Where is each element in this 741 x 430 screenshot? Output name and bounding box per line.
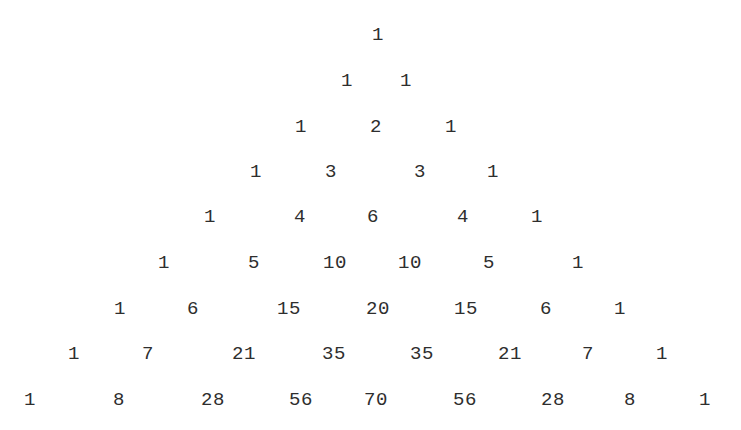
pascal-triangle: 1111211331146411510105116152015611721353… [0, 0, 741, 430]
triangle-cell: 1 [445, 118, 457, 137]
triangle-cell: 1 [372, 26, 384, 45]
triangle-cell: 28 [201, 391, 225, 410]
triangle-cell: 1 [341, 72, 353, 91]
triangle-cell: 1 [158, 254, 170, 273]
triangle-cell: 1 [531, 208, 543, 227]
triangle-cell: 21 [232, 345, 256, 364]
triangle-cell: 1 [68, 345, 80, 364]
triangle-cell: 3 [325, 163, 337, 182]
triangle-cell: 1 [656, 345, 668, 364]
triangle-cell: 1 [699, 391, 711, 410]
triangle-cell: 1 [250, 163, 262, 182]
triangle-cell: 15 [454, 300, 478, 319]
triangle-cell: 10 [323, 254, 347, 273]
triangle-cell: 8 [113, 391, 125, 410]
triangle-cell: 6 [187, 300, 199, 319]
triangle-cell: 5 [483, 254, 495, 273]
triangle-cell: 15 [277, 300, 301, 319]
triangle-cell: 5 [248, 254, 260, 273]
triangle-cell: 7 [142, 345, 154, 364]
triangle-cell: 21 [498, 345, 522, 364]
triangle-cell: 4 [457, 208, 469, 227]
triangle-cell: 1 [400, 72, 412, 91]
triangle-cell: 1 [24, 391, 36, 410]
triangle-cell: 20 [366, 300, 390, 319]
triangle-cell: 1 [487, 163, 499, 182]
triangle-cell: 4 [294, 208, 306, 227]
triangle-cell: 6 [540, 300, 552, 319]
triangle-cell: 28 [541, 391, 565, 410]
triangle-cell: 70 [364, 391, 388, 410]
triangle-cell: 35 [322, 345, 346, 364]
triangle-cell: 3 [414, 163, 426, 182]
triangle-cell: 35 [410, 345, 434, 364]
triangle-cell: 8 [624, 391, 636, 410]
triangle-cell: 1 [572, 254, 584, 273]
triangle-cell: 2 [370, 118, 382, 137]
triangle-cell: 10 [398, 254, 422, 273]
triangle-cell: 1 [295, 118, 307, 137]
triangle-cell: 1 [204, 208, 216, 227]
triangle-cell: 56 [453, 391, 477, 410]
triangle-cell: 56 [289, 391, 313, 410]
triangle-cell: 1 [614, 300, 626, 319]
triangle-cell: 7 [582, 345, 594, 364]
triangle-cell: 6 [367, 208, 379, 227]
triangle-cell: 1 [114, 300, 126, 319]
